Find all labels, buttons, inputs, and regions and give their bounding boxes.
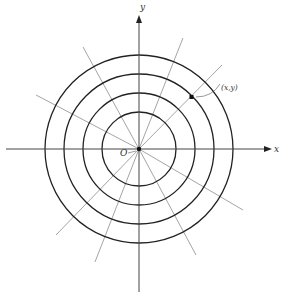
y-axis-label: y (139, 2, 146, 12)
point-marker (190, 95, 194, 99)
radial-line (139, 65, 222, 149)
radial-line (95, 149, 139, 262)
x-axis-label: x (274, 144, 279, 154)
point-label: (x,y) (221, 83, 238, 92)
radial-line (83, 47, 139, 149)
radial-line (36, 95, 139, 149)
origin-pointer (128, 151, 136, 153)
y-axis-arrow-icon (136, 15, 142, 23)
diagram-canvas: O x y (x,y) (0, 0, 282, 302)
radial-line (56, 149, 139, 235)
origin-label: O (120, 148, 128, 158)
polar-coordinates-diagram: O x y (x,y) (0, 0, 282, 302)
origin-dot (137, 147, 141, 151)
x-axis-arrow-icon (264, 146, 272, 152)
